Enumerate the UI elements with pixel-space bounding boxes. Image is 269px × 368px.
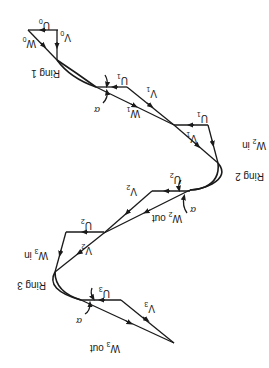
alpha-arc-3 [85,304,90,314]
label-u1a: U1 [117,73,128,86]
w3in-arrowhead [79,251,82,253]
w1-arrowhead [131,104,135,106]
ring-2-blade-inner [190,163,218,190]
label-alpha-2: α [190,205,196,217]
label-v1a: V1 [146,86,157,99]
v1b-arrowhead [212,140,213,144]
label-v0: V0 [60,30,71,43]
v2b-arrowhead [60,250,61,254]
label-alpha-3: α [76,316,82,328]
label-u0: U0 [39,18,50,31]
label-v2b: V2 [81,243,92,256]
label-u1b: U1 [197,111,208,124]
label-w3in: W3 in [24,248,48,261]
label-v1b: V1 [186,131,197,144]
label-u2b: U2 [81,218,92,231]
u1-pointer-arc [105,75,107,85]
label-u2a: U2 [170,172,181,185]
triangle-3 [81,288,174,343]
label-w0: W0 [23,36,36,49]
label-ring-3: Ring 3 [17,280,46,291]
label-v2a: V2 [126,184,137,197]
ring-1-blade-inner [57,60,96,87]
w2out-arrowhead [146,210,150,212]
label-v3: V3 [144,301,155,314]
triangle-2b [55,232,104,272]
velocity-triangle-diagram: U0 V0 W0 Ring 1 U1 α V1 W1 U1 V1 W2 in R… [0,0,269,368]
w3out-arrowhead [126,321,130,323]
label-w2out: W2 out [152,211,182,224]
labels: U0 V0 W0 Ring 1 U1 α V1 W1 U1 V1 W2 in R… [17,18,266,354]
ring-3-blade [53,272,81,300]
u3-pointer-arc [91,288,93,298]
label-w3out: W3 out [90,341,120,354]
alpha-arc-1 [103,92,107,103]
label-ring-1: Ring 1 [31,68,60,79]
triangle-2a [104,180,190,233]
alpha-arc-2 [183,197,187,213]
label-alpha-1: α [94,105,100,117]
label-u3: U3 [99,286,110,299]
label-ring-2: Ring 2 [235,171,264,182]
label-w2in: W2 in [242,138,266,151]
